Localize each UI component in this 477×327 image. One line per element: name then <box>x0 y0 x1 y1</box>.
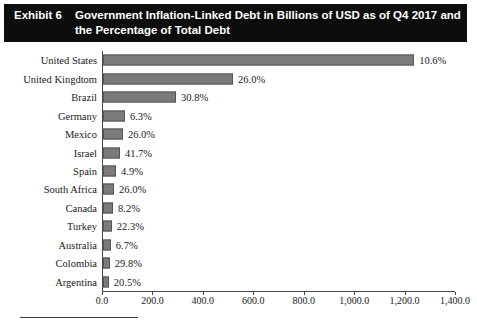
x-axis-ticks: 0.0200.0400.0600.0800.01,000.01,200.01,4… <box>0 292 477 308</box>
x-tick-label: 200.0 <box>141 295 164 306</box>
bar-value-label: 30.8% <box>181 92 208 103</box>
bar <box>103 184 114 195</box>
bar-row: Germany6.3% <box>103 106 456 124</box>
exhibit-header: Exhibit 6 Government Inflation-Linked De… <box>4 4 467 42</box>
bar-value-label: 10.6% <box>419 55 446 66</box>
category-label: Colombia <box>56 258 97 269</box>
category-label: Spain <box>73 165 97 176</box>
category-label: Turkey <box>67 221 97 232</box>
plot-area: United States10.6%United Kingdtom26.0%Br… <box>102 51 456 291</box>
bar-row: Brazil30.8% <box>103 88 456 106</box>
bar-value-label: 26.0% <box>128 129 155 140</box>
bar-row: Argentina20.5% <box>103 273 456 291</box>
bar-chart: United States10.6%United Kingdtom26.0%Br… <box>0 46 477 304</box>
bar <box>103 92 176 103</box>
exhibit-number-label: Exhibit 6 <box>14 8 75 23</box>
bar <box>103 129 123 140</box>
category-label: Mexico <box>65 129 97 140</box>
bar-row: United Kingdtom26.0% <box>103 69 456 87</box>
bar-value-label: 4.9% <box>121 165 143 176</box>
bar-row: South Africa26.0% <box>103 180 456 198</box>
bar-row: Turkey22.3% <box>103 217 456 235</box>
category-label: Germany <box>58 110 97 121</box>
bar-row: Israel41.7% <box>103 143 456 161</box>
x-tick-label: 400.0 <box>192 295 215 306</box>
exhibit-header-row: Exhibit 6 Government Inflation-Linked De… <box>14 8 461 38</box>
bar <box>103 276 109 287</box>
bar <box>103 165 116 176</box>
bar-value-label: 6.7% <box>116 239 138 250</box>
bar-value-label: 8.2% <box>118 202 140 213</box>
bar <box>103 110 125 121</box>
bar-row: Canada8.2% <box>103 199 456 217</box>
bar <box>103 73 233 84</box>
bar-value-label: 29.8% <box>115 258 142 269</box>
bar-row: Spain4.9% <box>103 162 456 180</box>
bar-row: Australia6.7% <box>103 236 456 254</box>
category-label: Australia <box>59 239 98 250</box>
x-tick-label: 1,200.0 <box>390 295 420 306</box>
bar <box>103 202 113 213</box>
bar <box>103 147 120 158</box>
bar-value-label: 26.0% <box>238 73 265 84</box>
bar <box>103 221 112 232</box>
bar-value-label: 41.7% <box>125 147 152 158</box>
footnote-rule <box>20 317 138 318</box>
category-label: South Africa <box>44 184 97 195</box>
bar-row: United States10.6% <box>103 51 456 69</box>
x-tick-label: 0.0 <box>96 295 109 306</box>
category-label: United Kingdtom <box>23 73 97 84</box>
bar-value-label: 26.0% <box>119 184 146 195</box>
category-label: Brazil <box>71 92 97 103</box>
bar <box>103 258 110 269</box>
category-label: Israel <box>74 147 97 158</box>
bar-value-label: 20.5% <box>114 276 141 287</box>
category-label: Argentina <box>55 276 97 287</box>
bar-row: Colombia29.8% <box>103 254 456 272</box>
x-tick-label: 800.0 <box>292 295 315 306</box>
category-label: Canada <box>66 202 98 213</box>
bar <box>103 55 414 66</box>
x-tick-label: 600.0 <box>242 295 265 306</box>
bar-value-label: 6.3% <box>130 110 152 121</box>
bar-value-label: 22.3% <box>117 221 144 232</box>
x-tick-label: 1,400.0 <box>440 295 470 306</box>
exhibit-title: Government Inflation-Linked Debt in Bill… <box>75 8 461 38</box>
bar <box>103 239 111 250</box>
category-label: United States <box>41 55 97 66</box>
bar-row: Mexico26.0% <box>103 125 456 143</box>
x-tick-label: 1,000.0 <box>339 295 369 306</box>
